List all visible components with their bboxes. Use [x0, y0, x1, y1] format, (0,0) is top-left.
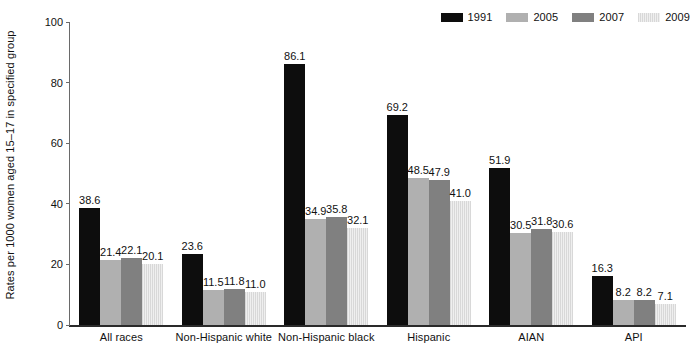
y-tick-label-40: 40 — [39, 198, 63, 210]
bar-2005[interactable]: 11.5 — [203, 290, 224, 325]
bar-2005[interactable]: 8.2 — [613, 300, 634, 325]
bar-value-label: 23.6 — [182, 241, 203, 252]
bar-cluster: 23.611.511.811.0 — [182, 22, 266, 325]
bar-value-label: 35.8 — [326, 204, 347, 215]
bar-chart: 1991 2005 2007 2009 Rates per 1000 women… — [0, 0, 698, 361]
legend-swatch-2007 — [572, 13, 594, 22]
bar-2009[interactable]: 41.0 — [450, 201, 471, 325]
bar-slot: 30.6 — [552, 22, 573, 325]
bar-slot: 32.1 — [347, 22, 368, 325]
y-axis-title-text: Rates per 1000 women aged 15–17 in speci… — [4, 30, 16, 299]
x-axis-labels: All racesNon-Hispanic whiteNon-Hispanic … — [70, 331, 685, 343]
bar-value-label: 51.9 — [489, 155, 510, 166]
bar-2007[interactable]: 35.8 — [326, 217, 347, 325]
bar-value-label: 86.1 — [284, 51, 305, 62]
bar-slot: 34.9 — [305, 22, 326, 325]
bar-1991[interactable]: 16.3 — [592, 276, 613, 325]
bar-2005[interactable]: 34.9 — [305, 219, 326, 325]
bar-2009[interactable]: 32.1 — [347, 228, 368, 325]
bar-2007[interactable]: 8.2 — [634, 300, 655, 325]
bar-group: 23.611.511.811.0 — [173, 22, 276, 325]
y-tick-label-60: 60 — [39, 137, 63, 149]
bar-slot: 48.5 — [408, 22, 429, 325]
bar-groups: 38.621.422.120.123.611.511.811.086.134.9… — [70, 22, 685, 325]
y-tick-0: 0 — [39, 319, 70, 331]
bar-slot: 38.6 — [79, 22, 100, 325]
bar-1991[interactable]: 23.6 — [182, 254, 203, 326]
bar-value-label: 21.4 — [100, 247, 121, 258]
bar-group: 16.38.28.27.1 — [583, 22, 686, 325]
x-axis-label-non-hispanic-white: Non-Hispanic white — [173, 331, 276, 343]
bar-2009[interactable]: 11.0 — [245, 292, 266, 325]
x-axis-label-aian: AIAN — [480, 331, 583, 343]
legend-swatch-2005 — [506, 13, 528, 22]
bar-value-label: 47.9 — [429, 167, 450, 178]
bar-group: 69.248.547.941.0 — [378, 22, 481, 325]
bar-cluster: 51.930.531.830.6 — [489, 22, 573, 325]
bar-slot: 11.0 — [245, 22, 266, 325]
x-axis-label-hispanic: Hispanic — [378, 331, 481, 343]
bar-slot: 51.9 — [489, 22, 510, 325]
bar-slot: 86.1 — [284, 22, 305, 325]
bar-cluster: 38.621.422.120.1 — [79, 22, 163, 325]
bar-slot: 35.8 — [326, 22, 347, 325]
bar-2005[interactable]: 48.5 — [408, 178, 429, 325]
y-tick-label-100: 100 — [39, 16, 63, 28]
bar-slot: 8.2 — [613, 22, 634, 325]
bar-slot: 7.1 — [655, 22, 676, 325]
bar-2005[interactable]: 30.5 — [510, 233, 531, 325]
x-axis-line — [69, 325, 686, 327]
bar-slot: 30.5 — [510, 22, 531, 325]
bar-slot: 20.1 — [142, 22, 163, 325]
bar-1991[interactable]: 38.6 — [79, 208, 100, 325]
bar-value-label: 41.0 — [450, 188, 471, 199]
y-tick-label-20: 20 — [39, 258, 63, 270]
y-tick-20: 20 — [39, 258, 70, 270]
bar-value-label: 38.6 — [79, 195, 100, 206]
bar-value-label: 30.5 — [510, 220, 531, 231]
bar-value-label: 16.3 — [592, 263, 613, 274]
bar-group: 38.621.422.120.1 — [70, 22, 173, 325]
bar-2005[interactable]: 21.4 — [100, 260, 121, 325]
x-axis-label-api: API — [583, 331, 686, 343]
bar-cluster: 69.248.547.941.0 — [387, 22, 471, 325]
bar-2009[interactable]: 20.1 — [142, 264, 163, 325]
bar-slot: 11.5 — [203, 22, 224, 325]
bar-slot: 11.8 — [224, 22, 245, 325]
bar-value-label: 32.1 — [347, 215, 368, 226]
bar-slot: 23.6 — [182, 22, 203, 325]
bar-value-label: 31.8 — [531, 216, 552, 227]
bar-group: 86.134.935.832.1 — [275, 22, 378, 325]
bar-value-label: 7.1 — [658, 291, 673, 302]
bar-value-label: 22.1 — [121, 245, 142, 256]
bar-2007[interactable]: 22.1 — [121, 258, 142, 325]
y-tick-100: 100 — [39, 16, 70, 28]
bar-1991[interactable]: 86.1 — [284, 64, 305, 325]
bar-1991[interactable]: 51.9 — [489, 168, 510, 325]
bar-value-label: 8.2 — [616, 287, 631, 298]
x-axis-label-all-races: All races — [70, 331, 173, 343]
bar-2007[interactable]: 11.8 — [224, 289, 245, 325]
bar-value-label: 48.5 — [408, 165, 429, 176]
bar-2007[interactable]: 31.8 — [531, 229, 552, 325]
bar-2009[interactable]: 7.1 — [655, 304, 676, 326]
bar-value-label: 8.2 — [637, 287, 652, 298]
bar-slot: 31.8 — [531, 22, 552, 325]
bar-2009[interactable]: 30.6 — [552, 232, 573, 325]
y-tick-40: 40 — [39, 198, 70, 210]
legend-swatch-2009 — [638, 13, 660, 22]
bar-value-label: 34.9 — [305, 206, 326, 217]
bar-1991[interactable]: 69.2 — [387, 115, 408, 325]
bar-slot: 41.0 — [450, 22, 471, 325]
y-tick-80: 80 — [39, 77, 70, 89]
bar-value-label: 30.6 — [552, 219, 573, 230]
bar-cluster: 86.134.935.832.1 — [284, 22, 368, 325]
bar-2007[interactable]: 47.9 — [429, 180, 450, 325]
bar-slot: 21.4 — [100, 22, 121, 325]
y-axis-title: Rates per 1000 women aged 15–17 in speci… — [2, 0, 18, 330]
bar-value-label: 11.0 — [245, 279, 266, 290]
bar-slot: 47.9 — [429, 22, 450, 325]
bar-value-label: 11.8 — [224, 276, 245, 287]
bar-value-label: 69.2 — [387, 102, 408, 113]
y-tick-label-0: 0 — [39, 319, 63, 331]
